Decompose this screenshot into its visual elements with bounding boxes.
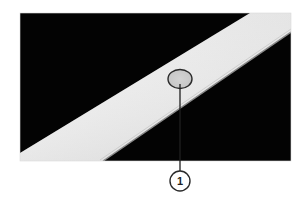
callout-1: 1 [170,171,190,191]
annotated-photo-figure: 1 [0,0,306,202]
photograph [20,13,291,161]
callout-number: 1 [177,175,183,187]
